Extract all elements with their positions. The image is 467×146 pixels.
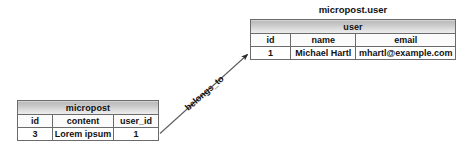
er-diagram-canvas: belongs_to micropost.user user id name e…: [0, 0, 467, 146]
micropost-table-title: micropost: [18, 101, 159, 115]
cell-user-email: mhartl@example.com: [356, 47, 456, 60]
column-header-name: name: [291, 34, 356, 47]
table-title-row: user: [251, 20, 456, 34]
column-header-content: content: [53, 115, 114, 128]
relationship-label: belongs_to: [183, 73, 226, 112]
column-header-user-id: user_id: [114, 115, 159, 128]
user-table-title: user: [251, 20, 456, 34]
table-header-row: id name email: [251, 34, 456, 47]
column-header-email: email: [356, 34, 456, 47]
user-table-caption: micropost.user: [250, 4, 456, 15]
cell-user-id: 1: [251, 47, 291, 60]
column-header-id: id: [251, 34, 291, 47]
user-entity-table: user id name email 1 Michael Hartl mhart…: [250, 19, 456, 60]
table-header-row: id content user_id: [18, 115, 159, 128]
cell-micropost-content: Lorem ipsum: [53, 128, 114, 141]
cell-micropost-id: 3: [18, 128, 53, 141]
table-row: 1 Michael Hartl mhartl@example.com: [251, 47, 456, 60]
table-row: 3 Lorem ipsum 1: [18, 128, 159, 141]
cell-user-name: Michael Hartl: [291, 47, 356, 60]
table-title-row: micropost: [18, 101, 159, 115]
column-header-id: id: [18, 115, 53, 128]
cell-micropost-user-id: 1: [114, 128, 159, 141]
micropost-entity-table: micropost id content user_id 3 Lorem ips…: [17, 100, 159, 141]
